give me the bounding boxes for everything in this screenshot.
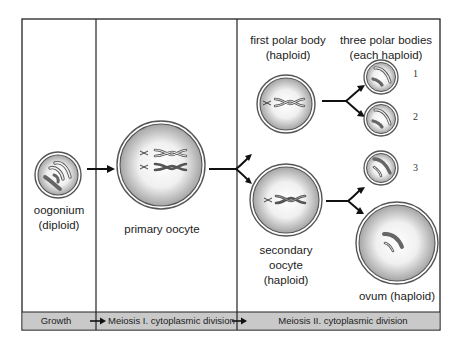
oogonium-label-line1: oogonium: [22, 203, 96, 218]
ovum-label-text: ovum (haploid): [350, 289, 444, 304]
three-polar-bodies-label-line2: (each haploid): [334, 48, 438, 63]
ovum-label: ovum (haploid): [350, 289, 444, 304]
primary-oocyte-label: primary oocyte: [108, 222, 216, 237]
ovum-cell: [356, 202, 438, 284]
three-polar-bodies-label-line1: three polar bodies: [334, 33, 438, 48]
three-polar-bodies-label: three polar bodies (each haploid): [334, 33, 438, 63]
first-polar-body-cell: [257, 75, 315, 133]
first-polar-body-label: first polar body (haploid): [240, 33, 336, 63]
secondary-oocyte-label-line1: secondary: [246, 243, 326, 258]
polar-body-2-cell: [364, 102, 398, 136]
stage-meiosis2-label: Meiosis II. cytoplasmic division: [248, 312, 438, 330]
oogonium-label-line2: (diploid): [22, 218, 96, 233]
arrow-meiosis2: [326, 187, 365, 214]
first-polar-body-label-line2: (haploid): [240, 48, 336, 63]
secondary-oocyte-label-line3: (haploid): [246, 273, 326, 288]
polar-body-number-2: 2: [413, 111, 418, 122]
stage-meiosis1-label: Meiosis I. cytoplasmic division: [108, 312, 234, 330]
oogonium-label: oogonium (diploid): [22, 203, 96, 233]
arrow-meiosis1: [209, 154, 252, 184]
polar-body-3-cell: [364, 151, 398, 185]
arrow-growth: [87, 165, 115, 173]
polar-body-number-3: 3: [413, 162, 418, 173]
secondary-oocyte-cell: [250, 164, 322, 236]
primary-oocyte-cell: [117, 121, 205, 209]
first-polar-body-label-line1: first polar body: [240, 33, 336, 48]
secondary-oocyte-label-line2: oocyte: [246, 258, 326, 273]
secondary-oocyte-label: secondary oocyte (haploid): [246, 243, 326, 288]
arrow-polar-split: [322, 85, 365, 117]
oogonium-cell: [35, 152, 81, 198]
stage-growth-label: Growth: [22, 312, 90, 330]
polar-body-number-1: 1: [413, 68, 418, 79]
polar-body-1-cell: [364, 60, 398, 94]
primary-oocyte-label-text: primary oocyte: [108, 222, 216, 237]
